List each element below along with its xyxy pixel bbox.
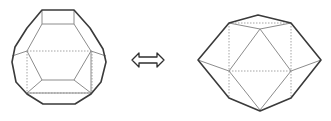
right-polyhedron (190, 0, 331, 121)
truncated-octahedron-drawing (0, 0, 120, 121)
double-arrow-icon (128, 50, 168, 70)
left-polyhedron (0, 0, 120, 121)
cuboctahedron-drawing (190, 0, 331, 121)
